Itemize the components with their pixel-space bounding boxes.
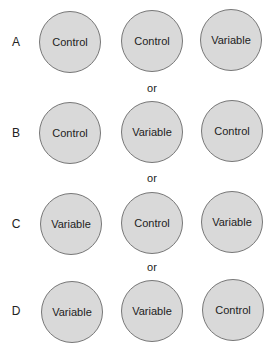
circle-d3: Control	[202, 279, 264, 341]
row-label-a: A	[8, 35, 24, 49]
circle-c2: Control	[121, 192, 183, 254]
row-label-b: B	[8, 126, 24, 140]
circle-b3: Control	[201, 100, 263, 162]
separator-or-3: or	[140, 261, 164, 273]
circle-b2: Variable	[121, 101, 183, 163]
row-label-c: C	[8, 217, 24, 231]
circle-b1: Control	[39, 102, 101, 164]
circle-a3: Variable	[200, 9, 262, 71]
circle-d2: Variable	[121, 280, 183, 342]
circle-d1: Variable	[41, 281, 103, 343]
circle-c1: Variable	[40, 193, 102, 255]
separator-or-2: or	[140, 172, 164, 184]
circle-a1: Control	[39, 11, 101, 73]
separator-or-1: or	[140, 82, 164, 94]
circle-a2: Control	[121, 10, 183, 72]
circle-c3: Variable	[201, 191, 263, 253]
row-label-d: D	[8, 304, 24, 318]
